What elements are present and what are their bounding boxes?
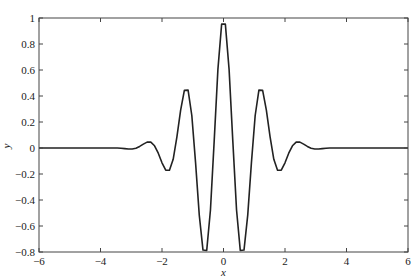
y-tick-label: −0.6	[15, 220, 35, 232]
y-tick-label: 0.4	[21, 90, 35, 102]
axes-box	[39, 18, 408, 252]
y-axis-ticks: −0.8−0.6−0.4−0.200.20.40.60.81	[15, 12, 408, 258]
y-tick-label: 0.8	[21, 38, 35, 50]
x-axis-label: x	[220, 266, 226, 278]
x-tick-label: −4	[95, 255, 107, 267]
y-tick-label: −0.2	[15, 168, 35, 180]
y-tick-label: 0.6	[21, 64, 35, 76]
y-tick-label: −0.4	[15, 194, 35, 206]
line-chart: −6−4−20246 −0.8−0.6−0.4−0.200.20.40.60.8…	[0, 0, 415, 280]
y-tick-label: −0.8	[15, 246, 35, 258]
x-axis-ticks: −6−4−20246	[33, 18, 411, 267]
x-tick-label: −2	[156, 255, 168, 267]
y-axis-label: y	[0, 143, 12, 149]
y-tick-label: 0	[30, 142, 36, 154]
x-tick-label: 6	[405, 255, 411, 267]
x-tick-label: 4	[344, 255, 350, 267]
y-tick-label: 0.2	[21, 116, 35, 128]
data-line	[39, 24, 408, 250]
y-tick-label: 1	[30, 12, 36, 24]
x-tick-label: 2	[282, 255, 288, 267]
